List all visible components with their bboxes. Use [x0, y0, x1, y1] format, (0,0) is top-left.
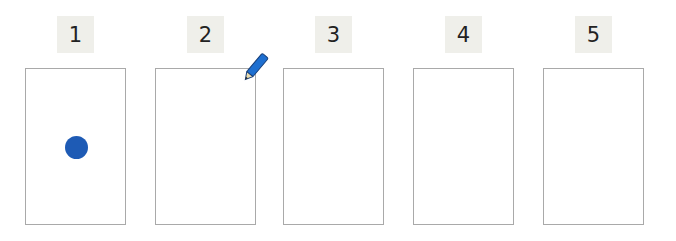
pencil-icon: [240, 50, 270, 86]
blue-dot-icon: [65, 136, 88, 159]
panel-card-3: [283, 68, 384, 225]
panel-label-3: 3: [315, 16, 352, 53]
panel-label-2: 2: [187, 16, 224, 53]
panel-card-2: [155, 68, 256, 225]
panel-label-4: 4: [445, 16, 482, 53]
panel-label-1: 1: [57, 16, 94, 53]
panel-card-4: [413, 68, 514, 225]
panel-label-5: 5: [575, 16, 612, 53]
panel-card-5: [543, 68, 644, 225]
panel-card-1: [25, 68, 126, 225]
